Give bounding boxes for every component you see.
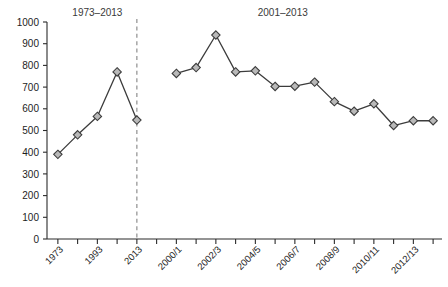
y-axis-tick-label: 900 bbox=[22, 38, 39, 49]
data-point-marker bbox=[212, 31, 220, 39]
x-axis-tick-label: 1993 bbox=[82, 244, 105, 267]
x-axis-tick-label: 2002/3 bbox=[195, 244, 223, 272]
data-point-marker bbox=[350, 107, 358, 115]
data-point-marker bbox=[291, 82, 299, 90]
y-axis-tick-label: 700 bbox=[22, 82, 39, 93]
series-line-panel-right bbox=[176, 35, 433, 125]
data-point-marker bbox=[429, 117, 437, 125]
data-point-marker bbox=[133, 116, 141, 124]
y-axis-tick-label: 300 bbox=[22, 169, 39, 180]
y-axis-tick-label: 500 bbox=[22, 125, 39, 136]
y-axis-tick-label: 400 bbox=[22, 147, 39, 158]
y-axis-tick-label: 200 bbox=[22, 190, 39, 201]
x-axis-tick-label: 2008/9 bbox=[313, 244, 341, 272]
panel-title-left: 1973–2013 bbox=[72, 7, 122, 18]
y-axis-tick-label: 0 bbox=[33, 234, 39, 245]
data-point-marker bbox=[409, 117, 417, 125]
x-axis-tick-label: 2012/13 bbox=[389, 244, 421, 276]
data-point-marker bbox=[172, 69, 180, 77]
x-axis-tick-label: 2004/5 bbox=[234, 244, 262, 272]
y-axis-tick-label: 800 bbox=[22, 60, 39, 71]
panel-title-right: 2001–2013 bbox=[258, 7, 308, 18]
line-chart: 0100200300400500600700800900100019731993… bbox=[0, 0, 448, 287]
data-point-marker bbox=[231, 68, 239, 76]
data-point-marker bbox=[192, 63, 200, 71]
y-axis-tick-label: 100 bbox=[22, 212, 39, 223]
x-axis-tick-label: 2013 bbox=[122, 244, 145, 267]
y-axis-tick-label: 1000 bbox=[17, 17, 40, 28]
data-point-marker bbox=[113, 68, 121, 76]
x-axis-tick-label: 1973 bbox=[43, 244, 66, 267]
x-axis-tick-label: 2010/11 bbox=[350, 244, 382, 276]
y-axis-tick-label: 600 bbox=[22, 103, 39, 114]
x-axis-tick-label: 2000/1 bbox=[155, 244, 183, 272]
chart-container: 0100200300400500600700800900100019731993… bbox=[0, 0, 448, 287]
x-axis-tick-label: 2006/7 bbox=[274, 244, 302, 272]
